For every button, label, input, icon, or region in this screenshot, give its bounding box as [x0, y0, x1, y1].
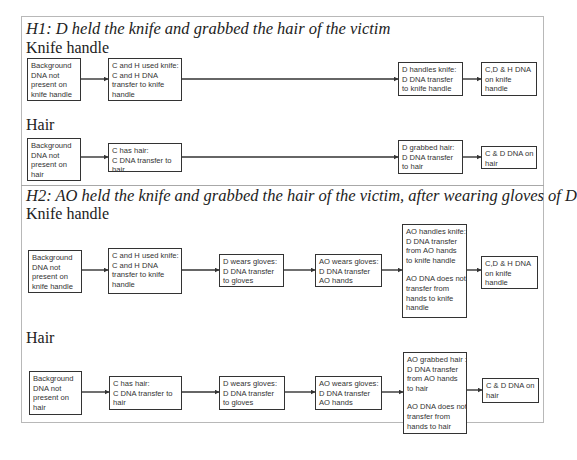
box-text: to hair — [402, 162, 459, 172]
box-text: C & D DNA on — [486, 381, 535, 391]
box-text: D DNA transfer — [223, 267, 280, 277]
h2-hair-box-c-has-hair: C has hair: C DNA transfer to hair — [109, 376, 182, 410]
box-text: C has hair: — [113, 379, 178, 389]
box-text: AO wears gloves: — [319, 379, 378, 389]
h2-hair-label: Hair — [26, 330, 54, 346]
box-text: from AO hands — [407, 374, 463, 384]
box-text: C,D & H DNA — [485, 259, 534, 269]
h1-knife-box-result: C,D & H DNA on knife handle — [481, 62, 537, 96]
box-text: hair — [485, 159, 533, 169]
box-text: to gloves — [223, 398, 281, 408]
box-text: hair — [486, 391, 535, 401]
h1-hair-box-background: Background DNA not present on hair — [27, 138, 81, 181]
box-text: to hair — [407, 384, 463, 394]
h2-title: H2: AO held the knife and grabbed the ha… — [26, 188, 577, 205]
box-text: AO hands — [319, 276, 378, 286]
box-text: DNA not — [31, 151, 77, 161]
h1-hair-label: Hair — [26, 117, 54, 133]
box-text: AO wears gloves: — [319, 257, 378, 267]
box-text: D DNA transfer — [223, 389, 281, 399]
box-text: DNA not — [33, 384, 78, 394]
box-text: transfer to knife — [112, 270, 178, 280]
box-text: to knife handle — [406, 256, 463, 266]
box-text: C,D & H DNA — [485, 65, 533, 75]
box-text: transfer to knife — [112, 80, 178, 90]
box-text: handle — [485, 278, 534, 288]
box-text: hair — [113, 398, 178, 408]
box-text: hair — [112, 165, 178, 172]
box-text: knife handle — [31, 90, 77, 100]
box-text: D DNA transfer — [406, 237, 463, 247]
box-text: to knife handle — [402, 84, 459, 94]
box-text: C has hair: — [112, 146, 178, 156]
box-text: Background — [33, 374, 78, 384]
box-text: handle — [485, 84, 533, 94]
box-text: to gloves — [223, 276, 280, 286]
box-text: present on — [32, 272, 78, 282]
box-text: D wears gloves: — [223, 379, 281, 389]
box-text: on knife — [485, 269, 534, 279]
box-text: AO grabbed hair : — [407, 355, 463, 365]
box-text: D DNA transfer — [319, 389, 378, 399]
box-text: Background — [31, 141, 77, 151]
h2-hair-box-result: C & D DNA on hair — [482, 378, 539, 403]
box-text: D grabbed hair: — [402, 143, 459, 153]
h1-hair-box-result: C & D DNA on hair — [481, 146, 537, 169]
box-text: D DNA transfer — [402, 75, 459, 85]
box-text: D handles knife: — [402, 65, 459, 75]
box-text: D wears gloves: — [223, 257, 280, 267]
box-text: handle — [112, 90, 178, 100]
h2-knife-box-ao-handles: AO handles knife: D DNA transfer from AO… — [402, 224, 467, 318]
h2-hair-box-background: Background DNA not present on hair — [29, 371, 82, 415]
h2-knife-box-c-and-h: C and H used knife: C and H DNA transfer… — [108, 248, 182, 294]
box-text: DNA not — [31, 71, 77, 81]
h1-knife-box-c-and-h: C and H used knife: C and H DNA transfer… — [108, 58, 182, 101]
box-text: D DNA transfer — [319, 267, 378, 277]
box-text: on knife — [485, 75, 533, 85]
spacer — [407, 393, 463, 402]
box-text: C DNA transfer to — [112, 156, 178, 166]
h2-hair-box-ao-wears-gloves: AO wears gloves: D DNA transfer AO hands — [315, 376, 382, 410]
h1-hair-box-d-grabbed: D grabbed hair: D DNA transfer to hair — [398, 140, 463, 174]
box-text: AO DNA does not — [407, 402, 463, 412]
h2-knife-box-result: C,D & H DNA on knife handle — [481, 256, 538, 289]
box-text: from AO hands — [406, 246, 463, 256]
spacer — [406, 265, 463, 274]
box-text: present on — [31, 80, 77, 90]
h1-title: H1: D held the knife and grabbed the hai… — [26, 21, 390, 38]
box-text: D DNA transfer — [402, 153, 459, 163]
box-text: handle — [112, 280, 178, 290]
box-text: C & D DNA on — [485, 149, 533, 159]
box-text: present on — [31, 160, 77, 170]
h1-knife-box-background: Background DNA not present on knife hand… — [27, 58, 81, 101]
h2-hair-box-ao-grabbed: AO grabbed hair : D DNA transfer from AO… — [403, 352, 467, 434]
box-text: hands to knife — [406, 294, 463, 304]
box-text: C DNA transfer to — [113, 389, 178, 399]
box-text: transfer from — [407, 412, 463, 422]
box-text: hair — [33, 403, 78, 413]
box-text: D DNA transfer — [407, 365, 463, 375]
box-text: AO handles knife: — [406, 227, 463, 237]
box-text: hair — [31, 170, 77, 180]
box-text: hands to hair — [407, 422, 463, 432]
box-text: present on — [33, 393, 78, 403]
box-text: C and H used knife: — [112, 61, 178, 71]
box-text: AO DNA does not — [406, 274, 463, 284]
h2-knife-handle-label: Knife handle — [26, 206, 109, 222]
h2-knife-box-d-wears-gloves: D wears gloves: D DNA transfer to gloves — [219, 254, 284, 287]
box-text: Background — [32, 253, 78, 263]
box-text: transfer from — [406, 284, 463, 294]
h2-hair-box-d-wears-gloves: D wears gloves: D DNA transfer to gloves — [219, 376, 285, 410]
h2-knife-box-ao-wears-gloves: AO wears gloves: D DNA transfer AO hands — [315, 254, 382, 287]
box-text: Background — [31, 61, 77, 71]
h1-hair-box-c-has-hair: C has hair: C DNA transfer to hair — [108, 143, 182, 172]
box-text: knife handle — [32, 282, 78, 292]
box-text: AO hands — [319, 398, 378, 408]
h1-knife-handle-label: Knife handle — [26, 40, 109, 56]
box-text: C and H DNA — [112, 261, 178, 271]
box-text: handle — [406, 303, 463, 313]
box-text: DNA not — [32, 263, 78, 273]
h2-knife-box-background: Background DNA not present on knife hand… — [28, 250, 82, 293]
h1-knife-box-d-handles: D handles knife: D DNA transfer to knife… — [398, 62, 463, 96]
box-text: C and H used knife: — [112, 251, 178, 261]
